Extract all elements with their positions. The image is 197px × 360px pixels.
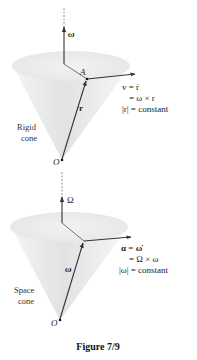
origin-dot-top (61, 159, 64, 162)
figure-caption: Figure 7/9 (76, 341, 119, 352)
capital-omega-label: Ω (67, 195, 74, 205)
space-cone-label-1: Space (14, 285, 35, 295)
velocity-eq-line1: v = ṙ (122, 82, 139, 92)
alpha-eq-line2: = Ω × ω (129, 254, 159, 264)
origin-label-top: O (53, 157, 60, 167)
rigid-cone-label-2: cone (21, 133, 37, 143)
alpha-eq-line3: |ω| = constant (119, 265, 169, 275)
velocity-eq-line2: = ω × r (129, 93, 155, 103)
alpha-eq-line1: α = ω̇ (121, 243, 143, 253)
space-cone-label-2: cone (18, 296, 34, 306)
space-cone-panel: Ω ω O α = ω̇ = Ω × ω |ω| = constant Spac… (10, 172, 169, 328)
rigid-cone-label-1: Rigid (17, 122, 37, 132)
rigid-cone-panel: ω A r O v = ṙ = ω × r |r| = constant Rig… (12, 8, 169, 167)
origin-dot-bottom (59, 319, 62, 322)
velocity-eq-line3: |r| = constant (122, 104, 169, 114)
origin-label-bottom: O (51, 318, 58, 328)
omega-label: ω (68, 29, 75, 39)
figure-canvas: ω A r O v = ṙ = ω × r |r| = constant Rig… (0, 0, 197, 360)
space-cone-top (10, 212, 128, 242)
point-a-label: A (79, 67, 86, 77)
point-a-dot (86, 78, 89, 81)
omega-vector-label: ω (65, 264, 72, 274)
r-label: r (79, 103, 83, 113)
